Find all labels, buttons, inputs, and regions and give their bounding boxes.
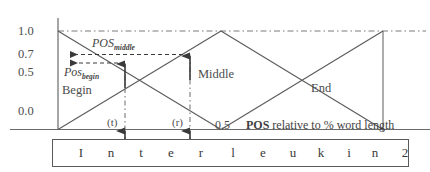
x-axis-midpoint-label: 0.5 <box>215 119 230 131</box>
fuzzy-position-figure: 1.0 0.7 0.5 0.0 POSmiddle Posbegin Begin… <box>0 0 430 172</box>
region-label-middle: Middle <box>198 68 234 81</box>
word-char: I <box>79 145 83 161</box>
word-char: e <box>260 145 266 161</box>
marker-label-r: (r) <box>172 117 183 128</box>
pos-begin-subscript: begin <box>82 72 99 81</box>
word-characters-box: Interleukin2 <box>52 139 409 167</box>
word-char: u <box>290 145 297 161</box>
pos-begin-base: Pos <box>64 65 82 79</box>
word-char: k <box>318 145 325 161</box>
y-tick-1-0: 1.0 <box>18 25 34 38</box>
pos-middle-subscript: middle <box>114 43 135 52</box>
marker-label-t: (t) <box>107 117 117 128</box>
y-tick-0-7: 0.7 <box>18 48 34 61</box>
y-tick-0-0: 0.0 <box>18 105 34 118</box>
pos-middle-annotation: POSmiddle <box>92 37 135 49</box>
word-char: r <box>199 145 203 161</box>
x-axis-caption: POS relative to % word length <box>246 119 394 131</box>
word-char: 2 <box>402 145 409 161</box>
word-char: l <box>231 145 235 161</box>
word-char: t <box>139 145 143 161</box>
word-char: n <box>108 145 115 161</box>
word-char: i <box>347 145 351 161</box>
word-char: e <box>168 145 174 161</box>
y-tick-0-5: 0.5 <box>18 66 34 79</box>
pos-begin-annotation: Posbegin <box>64 66 99 78</box>
word-char: n <box>372 145 379 161</box>
region-label-end: End <box>311 82 331 95</box>
region-label-begin: Begin <box>62 84 92 97</box>
pos-middle-base: POS <box>92 36 114 50</box>
x-axis-caption-bold: POS <box>246 118 269 132</box>
x-axis-caption-rest: relative to % word length <box>269 118 394 132</box>
